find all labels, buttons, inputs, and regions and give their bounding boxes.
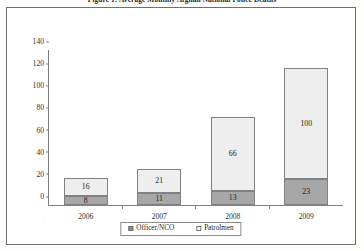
bar-segment-officer-2007[interactable]: 11: [137, 193, 181, 205]
stacked-bar-2008: 13 66: [211, 117, 255, 205]
bar-segment-officer-2009[interactable]: 23: [284, 179, 328, 205]
y-axis-tick-40: 40: [36, 147, 49, 156]
bar-segment-patrolmen-2007[interactable]: 21: [137, 169, 181, 192]
stacked-bar-2009: 23 100: [284, 68, 328, 205]
legend-label-patrolmen: Patrolmen: [204, 225, 234, 232]
y-axis-tick-80: 80: [36, 103, 49, 112]
bar-segment-patrolmen-2009[interactable]: 100: [284, 68, 328, 179]
bar-value-patrolmen-2007: 21: [155, 177, 163, 185]
bar-segment-officer-2008[interactable]: 13: [211, 191, 255, 205]
stacked-bar-2006: 8 16: [64, 178, 108, 205]
scanned-figure-page: Figure 1: Average Monthly Afghan Nationa…: [0, 0, 364, 251]
bar-value-patrolmen-2006: 16: [82, 183, 90, 191]
y-axis-tick-120: 120: [33, 59, 49, 68]
bar-value-officer-2009: 23: [302, 188, 310, 196]
bar-segment-officer-2006[interactable]: 8: [64, 196, 108, 205]
bar-group-2007: 11 21 2007: [123, 50, 197, 205]
y-axis-tick-0: 0: [40, 192, 49, 201]
hollow-square-icon: [196, 226, 201, 231]
legend-item-patrolmen[interactable]: Patrolmen: [196, 225, 234, 232]
legend-label-officer-nco: Officer/NCO: [136, 225, 174, 232]
bar-value-officer-2007: 11: [155, 195, 163, 203]
bar-value-officer-2008: 13: [229, 194, 237, 202]
chart-frame: 0 20 40 60 80 100 120 140 8 16: [6, 7, 356, 245]
bar-group-2009: 23 100 2009: [270, 50, 344, 205]
plot-area: 0 20 40 60 80 100 120 140 8 16: [48, 50, 343, 206]
figure-caption: Figure 1: Average Monthly Afghan Nationa…: [0, 0, 364, 6]
bar-value-patrolmen-2009: 100: [300, 120, 312, 128]
bar-value-patrolmen-2008: 66: [229, 150, 237, 158]
filled-square-icon: [128, 226, 133, 231]
bar-series-group: 8 16 2006 11 21: [49, 50, 343, 205]
legend-item-officer-nco[interactable]: Officer/NCO: [128, 225, 174, 232]
y-axis-tick-100: 100: [33, 81, 49, 90]
y-axis-tick-60: 60: [36, 125, 49, 134]
bar-group-2008: 13 66 2008: [196, 50, 270, 205]
bar-value-officer-2006: 8: [84, 197, 88, 205]
x-axis-label-2009: 2009: [270, 212, 344, 221]
y-axis-tick-20: 20: [36, 169, 49, 178]
x-axis-label-2007: 2007: [123, 212, 197, 221]
chart-legend: Officer/NCO Patrolmen: [120, 222, 241, 236]
bar-segment-patrolmen-2006[interactable]: 16: [64, 178, 108, 196]
x-axis-label-2008: 2008: [196, 212, 270, 221]
x-axis-label-2006: 2006: [49, 212, 123, 221]
y-axis-tick-140: 140: [33, 37, 49, 46]
bar-group-2006: 8 16 2006: [49, 50, 123, 205]
bar-segment-patrolmen-2008[interactable]: 66: [211, 117, 255, 191]
stacked-bar-2007: 11 21: [137, 169, 181, 205]
